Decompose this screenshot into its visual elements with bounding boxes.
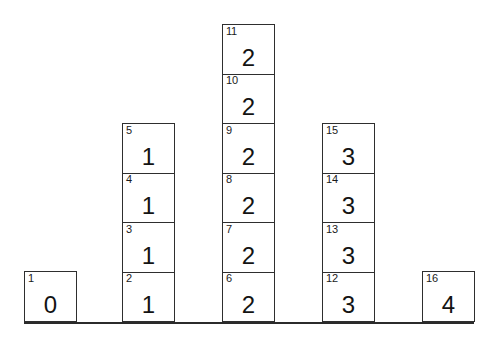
block-index-label: 1	[28, 273, 34, 284]
block: 164	[422, 271, 475, 322]
block: 123	[322, 271, 375, 322]
block-column-0: 10	[24, 271, 77, 322]
block-index-label: 12	[326, 273, 338, 284]
block-index-label: 2	[126, 273, 132, 284]
block-index-label: 14	[326, 174, 338, 185]
block-column-1: 21314151	[122, 118, 175, 322]
block-value-label: 3	[323, 243, 374, 269]
block-value-label: 2	[223, 144, 274, 170]
block: 21	[122, 271, 175, 322]
block: 31	[122, 222, 175, 273]
block-index-label: 9	[226, 125, 232, 136]
block-index-label: 7	[226, 224, 232, 235]
block-column-2: 62728292102112	[222, 16, 275, 322]
block-value-label: 1	[123, 193, 174, 219]
block: 133	[322, 222, 375, 273]
block-value-label: 2	[223, 94, 274, 120]
block-index-label: 5	[126, 125, 132, 136]
block-value-label: 2	[223, 45, 274, 71]
block: 72	[222, 222, 275, 273]
block-value-label: 2	[223, 243, 274, 269]
block-value-label: 1	[123, 292, 174, 318]
block: 62	[222, 271, 275, 322]
block: 41	[122, 172, 175, 223]
block: 10	[24, 271, 77, 322]
block: 102	[222, 73, 275, 124]
block-value-label: 4	[423, 292, 474, 318]
baseline-axis	[24, 322, 474, 324]
block-value-label: 2	[223, 292, 274, 318]
block-value-label: 3	[323, 292, 374, 318]
block-index-label: 3	[126, 224, 132, 235]
block-column-4: 164	[422, 271, 475, 322]
block-index-label: 6	[226, 273, 232, 284]
block-index-label: 4	[126, 174, 132, 185]
block-index-label: 16	[426, 273, 438, 284]
block-index-label: 11	[226, 26, 237, 37]
block-value-label: 2	[223, 193, 274, 219]
block: 92	[222, 123, 275, 174]
block-index-label: 8	[226, 174, 232, 185]
block-column-3: 123133143153	[322, 118, 375, 322]
block-value-label: 1	[123, 144, 174, 170]
block: 143	[322, 172, 375, 223]
dot-plot-figure: 102131415162728292102112123133143153164	[0, 0, 496, 339]
block-index-label: 13	[326, 224, 338, 235]
block-index-label: 15	[326, 125, 338, 136]
block: 153	[322, 123, 375, 174]
block: 51	[122, 123, 175, 174]
block-value-label: 1	[123, 243, 174, 269]
block: 82	[222, 172, 275, 223]
block-value-label: 0	[25, 292, 76, 318]
block-value-label: 3	[323, 144, 374, 170]
block-value-label: 3	[323, 193, 374, 219]
block-index-label: 10	[226, 75, 238, 86]
block: 112	[222, 24, 275, 75]
